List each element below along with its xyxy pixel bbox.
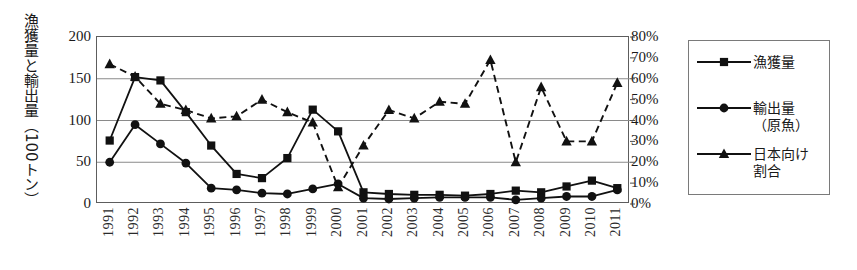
datapoint-triangle-2002 <box>384 104 394 114</box>
x-tick-1994: 1994 <box>177 207 193 237</box>
y-axis-title-text: 漁獲量と輸出量（100トン） <box>21 13 42 207</box>
datapoint-square-1998 <box>283 154 291 162</box>
y2-tick-0pct: 0% <box>631 196 677 211</box>
y2-tick-30pct: 30% <box>631 133 677 148</box>
legend-circle-marker <box>720 104 729 113</box>
datapoint-circle-1998 <box>283 190 292 199</box>
datapoint-square-1997 <box>258 174 266 182</box>
legend-marker-svg <box>695 99 753 117</box>
datapoint-circle-2007 <box>511 195 520 204</box>
datapoint-triangle-2008 <box>536 82 546 92</box>
datapoint-triangle-2006 <box>485 54 495 64</box>
datapoint-square-1993 <box>156 76 164 84</box>
datapoint-square-2010 <box>588 177 596 185</box>
legend-label-2: 輸出量 （原魚） <box>753 99 809 134</box>
y-tick-0: 0 <box>45 196 91 211</box>
legend-label-1: 漁獲量 <box>753 53 795 71</box>
datapoint-square-1996 <box>232 170 240 178</box>
datapoint-square-1995 <box>207 141 215 149</box>
x-tick-1991: 1991 <box>101 207 117 237</box>
x-tick-1993: 1993 <box>151 207 167 237</box>
datapoint-triangle-2004 <box>434 96 444 106</box>
x-tick-2004: 2004 <box>431 207 447 237</box>
x-tick-2003: 2003 <box>405 207 421 237</box>
datapoint-circle-1991 <box>105 158 114 167</box>
datapoint-circle-1994 <box>181 159 190 168</box>
x-tick-1992: 1992 <box>126 207 142 237</box>
x-tick-1997: 1997 <box>253 207 269 237</box>
datapoint-circle-1996 <box>232 185 241 194</box>
x-axis-tick-labels: 1991199219931994199519961997199819992000… <box>96 205 629 267</box>
legend-square-marker <box>720 58 728 66</box>
datapoint-circle-2011 <box>613 185 622 194</box>
y2-tick-70pct: 70% <box>631 49 677 64</box>
y-tick-150: 150 <box>45 70 91 85</box>
datapoint-circle-1992 <box>131 120 140 129</box>
datapoint-circle-1993 <box>156 139 165 148</box>
y-tick-50: 50 <box>45 154 91 169</box>
y2-tick-60pct: 60% <box>631 70 677 85</box>
datapoint-triangle-1995 <box>206 113 216 123</box>
x-tick-2010: 2010 <box>583 207 599 237</box>
datapoint-circle-2006 <box>486 193 495 202</box>
legend-marker-svg <box>695 145 753 163</box>
legend-item-2[interactable]: 輸出量 （原魚） <box>689 99 829 134</box>
datapoint-circle-2010 <box>588 192 597 201</box>
x-tick-1999: 1999 <box>304 207 320 237</box>
x-tick-2011: 2011 <box>608 207 624 236</box>
legend-sample-triangle-marker <box>695 145 753 163</box>
datapoint-square-1999 <box>309 106 317 114</box>
y2-tick-10pct: 10% <box>631 175 677 190</box>
datapoint-circle-2005 <box>461 193 470 202</box>
y-axis-tick-labels: 050100150200 <box>45 28 91 210</box>
datapoint-triangle-2007 <box>511 157 521 167</box>
series-3-triangle <box>104 54 622 191</box>
datapoint-square-2007 <box>512 187 520 195</box>
x-tick-2008: 2008 <box>532 207 548 237</box>
y2-tick-50pct: 50% <box>631 91 677 106</box>
x-tick-2000: 2000 <box>329 207 345 237</box>
datapoint-triangle-1996 <box>231 111 241 121</box>
datapoint-triangle-1997 <box>257 94 267 104</box>
chart-container: 漁獲量と輸出量（100トン） 050100150200 0%10%20%30%4… <box>0 0 857 270</box>
legend-sample-circle-marker <box>695 99 753 117</box>
x-tick-2009: 2009 <box>558 207 574 237</box>
y-tick-200: 200 <box>45 29 91 44</box>
datapoint-square-2000 <box>334 127 342 135</box>
legend-sample-square-marker <box>695 53 753 71</box>
series-line-square <box>110 77 618 196</box>
datapoint-circle-1995 <box>207 184 216 193</box>
x-tick-2006: 2006 <box>481 207 497 237</box>
secondary-y-axis-tick-labels: 0%10%20%30%40%50%60%70%80% <box>631 28 677 210</box>
datapoint-circle-1997 <box>258 189 267 198</box>
x-tick-1998: 1998 <box>278 207 294 237</box>
x-tick-1996: 1996 <box>228 207 244 237</box>
x-tick-1995: 1995 <box>202 207 218 237</box>
chart-legend: 漁獲量輸出量 （原魚）日本向け 割合 <box>688 40 830 195</box>
datapoint-triangle-1991 <box>104 59 114 69</box>
datapoint-circle-2009 <box>562 192 571 201</box>
datapoint-square-1991 <box>106 136 114 144</box>
datapoint-circle-1999 <box>308 185 317 194</box>
x-tick-2005: 2005 <box>456 207 472 237</box>
datapoint-triangle-2005 <box>460 98 470 108</box>
legend-item-3[interactable]: 日本向け 割合 <box>689 145 829 180</box>
x-tick-2001: 2001 <box>355 207 371 237</box>
datapoint-triangle-2001 <box>358 140 368 150</box>
datapoint-circle-2003 <box>410 194 419 203</box>
datapoint-triangle-2010 <box>587 136 597 146</box>
y2-tick-80pct: 80% <box>631 29 677 44</box>
y2-tick-20pct: 20% <box>631 154 677 169</box>
legend-marker-svg <box>695 53 753 71</box>
y-tick-100: 100 <box>45 112 91 127</box>
datapoint-circle-2002 <box>384 195 393 204</box>
x-tick-2002: 2002 <box>380 207 396 237</box>
datapoint-square-2009 <box>562 182 570 190</box>
y-axis-title: 漁獲量と輸出量（100トン） <box>18 10 44 210</box>
x-tick-2007: 2007 <box>507 207 523 237</box>
legend-item-1[interactable]: 漁獲量 <box>689 53 829 71</box>
datapoint-circle-2001 <box>359 194 368 203</box>
y2-tick-40pct: 40% <box>631 112 677 127</box>
plot-area <box>96 36 629 203</box>
plot-svg <box>97 37 630 204</box>
